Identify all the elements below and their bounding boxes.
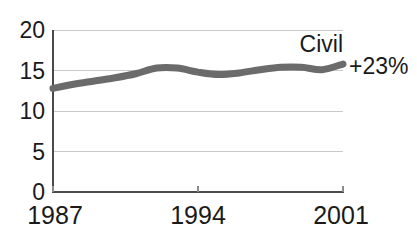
x-axis-labels: 1987 1994 2001 [27,201,369,229]
series-label-civil: Civil [300,31,343,57]
percent-change-label: +23% [349,53,408,79]
y-tick-label-20: 20 [19,17,45,43]
line-chart: 20 15 10 5 0 1987 1994 2001 Civil +23% [0,0,417,236]
y-tick-label-15: 15 [19,58,45,84]
y-tick-label-5: 5 [32,139,45,165]
x-tick-label-1994: 1994 [170,201,226,229]
y-tick-label-10: 10 [19,98,45,124]
chart-canvas: 20 15 10 5 0 1987 1994 2001 Civil +23% [0,0,417,236]
x-tick-label-2001: 2001 [313,201,369,229]
x-tick-label-1987: 1987 [27,201,83,229]
